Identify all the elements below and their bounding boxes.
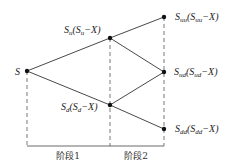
binomial-tree-diagram: S Su(Su−X) Sd(Sd−X) Suu(Suu−X) Sud(Sud−X…	[0, 0, 232, 164]
label-Su: Su(Su−X)	[64, 24, 101, 37]
node-Sdd	[162, 127, 166, 131]
node-Suu	[162, 15, 166, 19]
edge-S-Sd	[27, 71, 110, 105]
node-S	[25, 69, 29, 73]
label-Sud: Sud(Sud−X)	[174, 66, 218, 79]
stage-2-label: 阶段2	[124, 150, 148, 161]
edge-Su-Sud	[110, 38, 164, 72]
label-S: S	[15, 66, 20, 77]
label-Sdd: Sdd(Sdd−X)	[175, 123, 219, 136]
label-Suu: Suu(Suu−X)	[175, 11, 219, 24]
edge-Su-Suu	[110, 17, 164, 38]
label-Sd: Sd(Sd−X)	[61, 101, 98, 114]
node-Su	[108, 36, 112, 40]
edge-S-Su	[27, 38, 110, 71]
node-Sud	[162, 70, 166, 74]
node-Sd	[108, 103, 112, 107]
edge-Sd-Sdd	[110, 105, 164, 129]
edge-Sd-Sud	[110, 72, 164, 105]
stage-1-label: 阶段1	[56, 150, 80, 161]
